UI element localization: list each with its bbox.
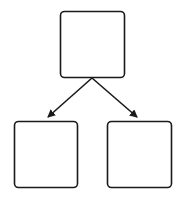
tree-diagram [0,0,181,198]
right-child-node [108,122,172,188]
edge-root-to-left [48,78,92,117]
root-node [61,12,125,78]
left-child-node [15,122,78,188]
edge-root-to-right [92,78,137,117]
